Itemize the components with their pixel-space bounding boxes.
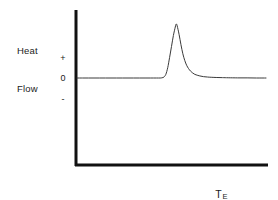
heat-flow-curve [77,24,266,78]
plot-area [0,0,278,200]
heat-flow-chart-figure: Heat Flow + 0 - TE [0,0,278,200]
